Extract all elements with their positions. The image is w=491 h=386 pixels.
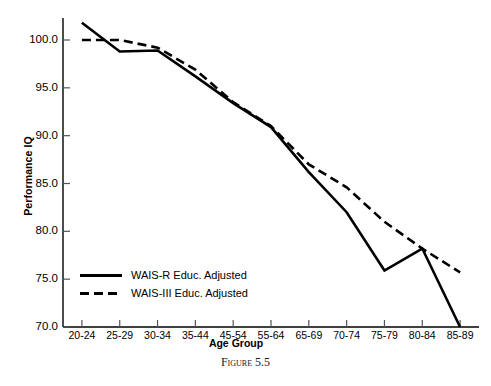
chart-legend: WAIS-R Educ. Adjusted WAIS-III Educ. Adj… — [80, 266, 295, 302]
x-axis-tick-labels: 20-2425-2930-3435-4445-5455-6465-6970-74… — [0, 0, 491, 386]
legend-item-wais-iii: WAIS-III Educ. Adjusted — [80, 284, 295, 302]
legend-item-wais-r: WAIS-R Educ. Adjusted — [80, 266, 295, 284]
legend-swatch-solid-icon — [80, 269, 122, 281]
x-tick-label: 85-89 — [437, 330, 483, 341]
legend-label-wais-iii: WAIS-III Educ. Adjusted — [131, 287, 248, 299]
x-axis-title: Age Group — [181, 337, 291, 349]
figure-caption: Figure 5.5 — [0, 355, 491, 370]
figure-container: Performance IQ 70.075.080.085.090.095.01… — [0, 0, 491, 386]
legend-label-wais-r: WAIS-R Educ. Adjusted — [131, 269, 247, 281]
legend-swatch-dashed-icon — [80, 287, 122, 299]
